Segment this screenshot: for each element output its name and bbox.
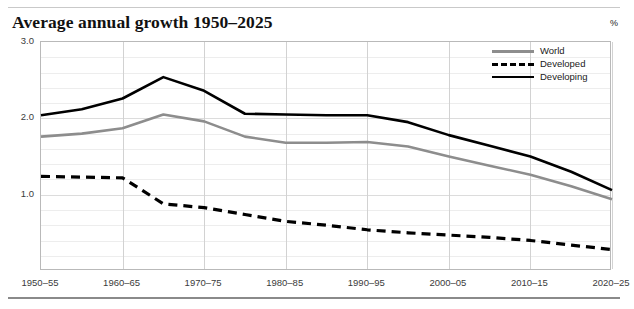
legend-label: Developing — [536, 71, 588, 82]
legend-label: World — [536, 45, 565, 56]
x-axis-tick-label: 1950–55 — [5, 277, 75, 288]
chart-legend: WorldDevelopedDeveloping — [490, 44, 610, 83]
y-axis-tick-label: 1.0 — [8, 188, 34, 199]
legend-swatch-developing — [490, 70, 536, 83]
x-axis-tick-label: 1980–85 — [250, 277, 320, 288]
x-axis-tick-label: 2010–15 — [494, 277, 564, 288]
legend-swatch-world — [490, 44, 536, 57]
legend-item-world[interactable]: World — [490, 44, 610, 57]
top-rule — [8, 7, 620, 8]
series-line-developed — [41, 176, 612, 249]
legend-item-developing[interactable]: Developing — [490, 70, 610, 83]
x-axis-tick-label: 1960–65 — [87, 277, 157, 288]
page-title: Average annual growth 1950–2025 — [12, 12, 273, 33]
y-axis-tick-label: 3.0 — [8, 35, 34, 46]
x-axis-tick-label: 1970–75 — [168, 277, 238, 288]
legend-label: Developed — [536, 58, 585, 69]
gridline-vertical — [612, 42, 613, 269]
x-axis-tick-label: 2000–05 — [413, 277, 483, 288]
unit-label: % — [610, 18, 618, 28]
bottom-rule — [8, 297, 620, 299]
x-axis-tick-label: 2020–25 — [576, 277, 634, 288]
series-line-world — [41, 115, 612, 200]
x-axis-tick-label: 1990–95 — [331, 277, 401, 288]
legend-item-developed[interactable]: Developed — [490, 57, 610, 70]
legend-swatch-developed — [490, 57, 536, 70]
y-axis-tick-label: 2.0 — [8, 111, 34, 122]
